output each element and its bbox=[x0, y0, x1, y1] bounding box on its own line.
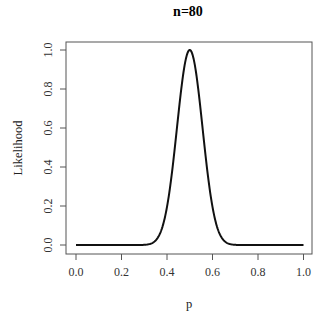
x-axis bbox=[76, 254, 304, 260]
x-axis-label: p bbox=[186, 297, 192, 311]
y-tick-label: 0.4 bbox=[41, 160, 55, 175]
x-tick-label: 0.8 bbox=[251, 265, 266, 279]
y-tick-label: 0.0 bbox=[41, 238, 55, 253]
x-tick-label: 0.4 bbox=[160, 265, 175, 279]
chart-svg: 0.0 0.2 0.4 0.6 0.8 1.0 0.0 0.2 0.4 0.6 … bbox=[0, 0, 328, 321]
plot-area-frame bbox=[66, 42, 312, 254]
y-tick-labels: 0.0 0.2 0.4 0.6 0.8 1.0 bbox=[41, 43, 55, 253]
likelihood-curve bbox=[76, 50, 304, 245]
x-tick-labels: 0.0 0.2 0.4 0.6 0.8 1.0 bbox=[69, 265, 312, 279]
x-tick-label: 0.2 bbox=[114, 265, 129, 279]
x-tick-label: 0.0 bbox=[69, 265, 84, 279]
x-tick-label: 1.0 bbox=[296, 265, 311, 279]
y-axis-label: Likelihood bbox=[11, 120, 25, 176]
y-tick-label: 0.6 bbox=[41, 121, 55, 136]
y-tick-label: 0.8 bbox=[41, 82, 55, 97]
y-tick-label: 0.2 bbox=[41, 199, 55, 214]
y-tick-label: 1.0 bbox=[41, 43, 55, 58]
y-axis bbox=[60, 50, 66, 245]
x-tick-label: 0.6 bbox=[205, 265, 220, 279]
